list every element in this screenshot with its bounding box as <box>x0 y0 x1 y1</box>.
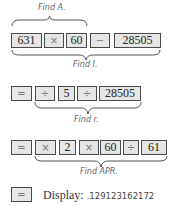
key-equals[interactable]: = <box>11 187 32 202</box>
key-equals[interactable]: = <box>11 86 32 101</box>
key-28505[interactable]: 28505 <box>114 33 161 48</box>
key-divide[interactable]: ÷ <box>35 86 55 101</box>
key-60[interactable]: 60 <box>100 140 121 155</box>
key-divide[interactable]: ÷ <box>123 140 139 155</box>
key-2[interactable]: 2 <box>59 140 76 155</box>
find-apr-text: Find APR. <box>80 167 118 176</box>
find-r-label: Find r. <box>74 115 99 124</box>
find-a-text: Find A. <box>38 3 66 12</box>
key-631[interactable]: 631 <box>11 33 42 48</box>
find-i-label: Find I. <box>73 60 97 69</box>
key-minus[interactable]: − <box>90 33 110 48</box>
find-i-text: Find I. <box>73 60 97 69</box>
key-61[interactable]: 61 <box>141 140 167 155</box>
display-label: Display: <box>43 188 84 202</box>
key-equals[interactable]: = <box>11 140 32 155</box>
key-28505[interactable]: 28505 <box>99 86 141 101</box>
key-divide[interactable]: ÷ <box>77 86 97 101</box>
key-60[interactable]: 60 <box>66 33 87 48</box>
key-multiply[interactable]: × <box>35 140 56 155</box>
brace-find-r <box>34 101 142 115</box>
find-a-label: Find A. <box>38 3 66 12</box>
calculator-display: Display: .129123162172 <box>43 188 154 203</box>
display-value: .129123162172 <box>87 191 155 201</box>
key-multiply[interactable]: × <box>79 140 99 155</box>
find-r-text: Find r. <box>74 115 99 124</box>
brace-find-a <box>11 15 88 27</box>
key-5[interactable]: 5 <box>58 86 75 101</box>
key-multiply[interactable]: × <box>44 33 64 48</box>
find-apr-label: Find APR. <box>80 167 118 176</box>
